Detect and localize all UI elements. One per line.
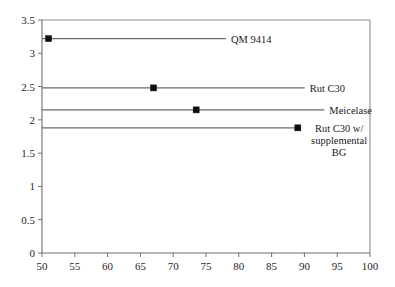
x-tick-label: 65 [135, 260, 147, 272]
x-tick-label: 60 [102, 260, 114, 272]
data-point-marker [151, 85, 157, 91]
y-tick-label: 0 [30, 247, 36, 259]
y-tick-label: 3 [30, 47, 36, 59]
x-tick-label: 95 [332, 260, 344, 272]
x-tick-label: 80 [233, 260, 245, 272]
series-label: Rut C30 [310, 83, 345, 94]
x-tick-label: 75 [201, 260, 213, 272]
x-tick-label: 90 [299, 260, 311, 272]
chart-container: 00.511.522.533.550556065707580859095100Q… [0, 0, 395, 287]
x-tick-label: 55 [69, 260, 81, 272]
data-point-marker [295, 125, 301, 131]
y-tick-label: 2 [30, 114, 36, 126]
series-label: supplemental [311, 135, 367, 146]
x-tick-label: 85 [266, 260, 278, 272]
data-series: QM 9414 [42, 34, 272, 45]
data-point-marker [46, 36, 52, 42]
x-tick-label: 100 [362, 260, 379, 272]
series-label: BG [332, 147, 347, 158]
series-label: Rut C30 w/ [315, 123, 364, 134]
data-series: Meicelase [42, 105, 372, 116]
y-tick-label: 1 [30, 180, 36, 192]
y-tick-label: 1.5 [21, 147, 35, 159]
y-axis-ticks: 00.511.522.533.5 [21, 14, 42, 259]
x-tick-label: 70 [168, 260, 180, 272]
x-axis-ticks: 50556065707580859095100 [37, 253, 379, 272]
x-tick-label: 50 [37, 260, 49, 272]
cellulase-performance-chart: 00.511.522.533.550556065707580859095100Q… [0, 0, 395, 287]
data-series: Rut C30 w/supplementalBG [42, 123, 367, 158]
y-tick-label: 3.5 [21, 14, 35, 26]
series-label: Meicelase [329, 105, 372, 116]
data-series: Rut C30 [42, 83, 345, 94]
y-tick-label: 0.5 [21, 214, 35, 226]
series-label: QM 9414 [231, 34, 272, 45]
y-tick-label: 2.5 [21, 81, 35, 93]
data-point-marker [193, 107, 199, 113]
